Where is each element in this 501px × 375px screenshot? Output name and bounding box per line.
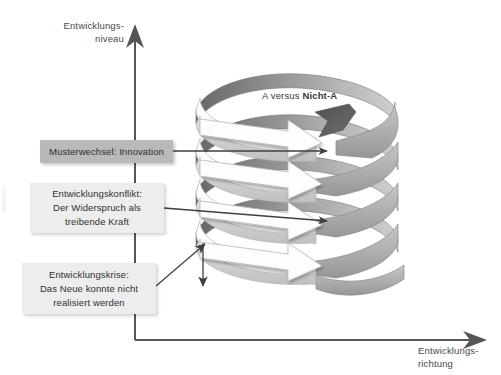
diagram-canvas: Entwicklungs- niveau Entwicklungs- richt… (0, 0, 501, 375)
callout-entwicklungskrise-text: Entwicklungskrise: Das Neue konnte nicht… (40, 268, 138, 310)
callout-musterwechsel-text: Musterwechsel: Innovation (49, 145, 164, 159)
spiral-caption-prefix: A versus (262, 90, 302, 101)
x-axis-label: Entwicklungs- richtung (418, 345, 500, 370)
spiral-caption-emphasis: Nicht-A (302, 90, 337, 101)
callout-musterwechsel: Musterwechsel: Innovation (40, 140, 173, 163)
connector-krise (156, 244, 205, 286)
callout-entwicklungskonflikt: Entwicklungskonflikt: Der Widerspruch al… (30, 183, 164, 233)
y-axis-label: Entwicklungs- niveau (28, 20, 124, 45)
development-spiral (196, 74, 404, 295)
callout-entwicklungskonflikt-text: Entwicklungskonflikt: Der Widerspruch al… (52, 187, 142, 229)
callout-entwicklungskrise: Entwicklungskrise: Das Neue konnte nicht… (22, 263, 156, 314)
spiral-caption: A versus Nicht-A (262, 90, 337, 101)
